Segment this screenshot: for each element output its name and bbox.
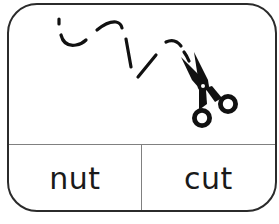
- word-picture-card: nut cut: [7, 3, 277, 212]
- choice-label: nut: [49, 161, 100, 196]
- picture-area: [9, 5, 275, 145]
- choice-label: cut: [184, 161, 233, 196]
- scissors-icon: [181, 52, 238, 128]
- dashed-cut-line: [59, 19, 189, 77]
- choice-cut[interactable]: cut: [142, 145, 275, 210]
- cut-illustration: [7, 3, 277, 150]
- choice-nut[interactable]: nut: [9, 145, 142, 210]
- word-choices: nut cut: [9, 145, 275, 210]
